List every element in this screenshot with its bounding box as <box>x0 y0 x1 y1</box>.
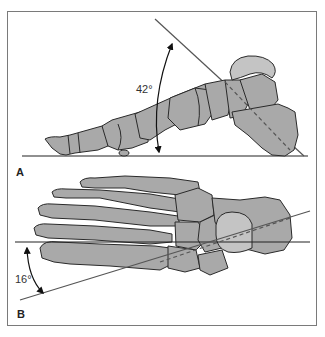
panel-label-a: A <box>16 166 24 178</box>
angle-arc-b <box>27 248 43 293</box>
panel-label-b: B <box>17 308 25 320</box>
foot-bones-dorsal <box>34 176 292 275</box>
panel-a <box>22 19 308 156</box>
foot-bones-lateral <box>45 74 298 156</box>
angle-label-a: 42° <box>136 83 153 95</box>
foot-diagram <box>0 0 325 337</box>
panel-b <box>15 176 310 300</box>
angle-label-b: 16° <box>15 273 32 285</box>
